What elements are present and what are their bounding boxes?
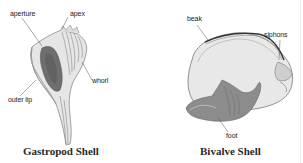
label-outer-lip: outer lip: [8, 96, 32, 103]
label-aperture: aperture: [10, 10, 35, 17]
label-foot: foot: [226, 132, 237, 139]
caption-gastropod: Gastropod Shell: [23, 146, 99, 157]
label-beak: beak: [187, 15, 202, 22]
label-whorl: whorl: [92, 77, 108, 84]
gastropod-shell-illustration: [0, 0, 150, 163]
caption-bivalve: Bivalve Shell: [200, 146, 261, 157]
gastropod-panel: aperture apex whorl outer lip Gastropod …: [0, 0, 150, 163]
right-edge-divider: [300, 0, 301, 163]
label-siphons: siphons: [264, 31, 287, 38]
label-apex: apex: [70, 10, 85, 17]
bivalve-panel: beak siphons foot Bivalve Shell: [150, 0, 303, 163]
